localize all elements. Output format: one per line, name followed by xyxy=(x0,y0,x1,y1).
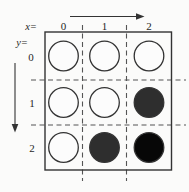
row-label-2: 2 xyxy=(29,142,35,154)
x-axis-label: x= xyxy=(24,21,37,32)
cell-circle-x2-y0-open xyxy=(134,41,164,71)
grid-circles xyxy=(49,41,164,162)
cell-circle-x2-y2-filled-black xyxy=(134,133,164,163)
cell-circle-x0-y2-open xyxy=(49,133,79,163)
col-label-1: 1 xyxy=(102,20,108,32)
y-arrow-head-icon xyxy=(12,124,19,133)
cell-circle-x1-y2-filled-dark xyxy=(90,133,120,163)
col-label-0: 0 xyxy=(61,20,67,32)
row-label-1: 1 xyxy=(29,97,35,109)
pixel-grid-figure: x= y= 0 1 2 0 1 2 xyxy=(0,0,189,192)
cell-circle-x1-y1-open xyxy=(90,88,120,118)
y-axis-label: y= xyxy=(15,37,28,48)
cell-circle-x2-y1-filled-dark xyxy=(134,88,164,118)
cell-circle-x0-y0-open xyxy=(49,41,79,71)
figure-svg: x= y= 0 1 2 0 1 2 xyxy=(0,0,189,192)
row-label-0: 0 xyxy=(28,51,34,63)
col-label-2: 2 xyxy=(146,20,152,32)
x-direction-arrow xyxy=(70,13,145,20)
x-arrow-head-icon xyxy=(136,13,145,20)
cell-circle-x1-y0-open xyxy=(90,41,120,71)
y-direction-arrow xyxy=(12,63,19,133)
cell-circle-x0-y1-open xyxy=(49,88,79,118)
